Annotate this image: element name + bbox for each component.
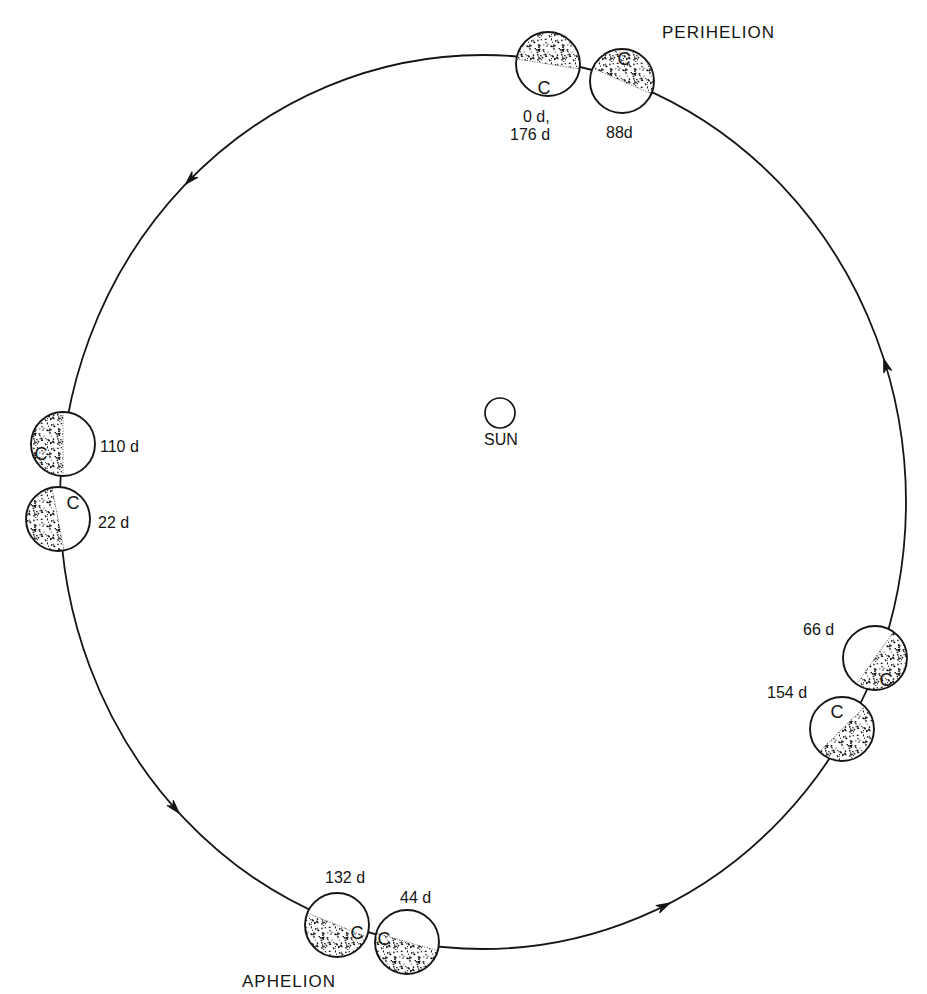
reference-mark-c: C — [538, 78, 551, 98]
reference-mark-c: C — [67, 493, 80, 513]
day-label: 0 d, — [523, 108, 550, 125]
reference-mark-c: C — [378, 929, 391, 949]
day-label: 88d — [606, 124, 633, 141]
sun: SUN — [484, 398, 518, 448]
planet-0d-176d: C — [516, 32, 580, 98]
planet-154d: C — [810, 697, 874, 761]
planet-88d: C — [590, 49, 654, 113]
day-label: 44 d — [400, 889, 431, 906]
reference-mark-c: C — [831, 702, 844, 722]
orbit-path — [60, 55, 906, 949]
sun-label: SUN — [484, 431, 518, 448]
reference-mark-c: C — [35, 444, 48, 464]
planet-66d: C — [843, 626, 907, 690]
planet-44d: C — [375, 910, 439, 974]
orbit-diagram: SUN C C C C C C C C PERIHELION APHELION … — [0, 0, 927, 994]
perihelion-label: PERIHELION — [662, 23, 775, 42]
day-label: 176 d — [510, 126, 550, 143]
day-label: 110 d — [100, 438, 139, 455]
day-label: 22 d — [98, 514, 129, 531]
reference-mark-c: C — [880, 670, 893, 690]
planet-132d: C — [305, 893, 369, 957]
day-label: 154 d — [767, 684, 807, 701]
reference-mark-c: C — [351, 923, 364, 943]
sun-icon — [485, 398, 515, 428]
planet-110d: C — [31, 412, 95, 476]
planet-22d: C — [26, 487, 90, 551]
day-label: 132 d — [325, 869, 365, 886]
aphelion-label: APHELION — [242, 972, 336, 991]
day-label: 66 d — [803, 621, 834, 638]
reference-mark-c: C — [618, 49, 631, 69]
